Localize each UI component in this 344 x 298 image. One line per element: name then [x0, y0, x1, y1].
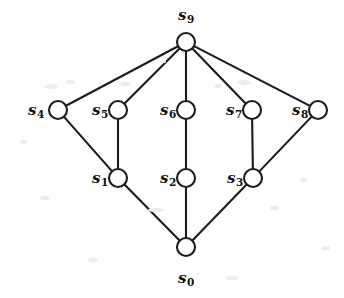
node-label-s3: s3 — [227, 171, 243, 186]
graph-node-s9[interactable] — [177, 33, 195, 51]
node-label-subscript-s6: 6 — [169, 108, 176, 120]
graph-edge-s3-s8 — [259, 116, 312, 172]
node-label-base-s5: s — [92, 101, 100, 119]
node-label-base-s7: s — [226, 101, 234, 119]
node-label-base-s9: s — [178, 6, 186, 24]
node-label-s1: s1 — [92, 171, 108, 186]
node-label-s6: s6 — [160, 103, 176, 118]
graph-edge-s3-s7 — [252, 119, 253, 170]
node-label-base-s2: s — [160, 169, 168, 187]
node-label-base-s4: s — [28, 101, 36, 119]
node-label-base-s0: s — [178, 269, 186, 287]
node-label-s9: s9 — [178, 8, 194, 23]
node-label-s0: s0 — [178, 271, 194, 286]
graph-node-s8[interactable] — [309, 101, 327, 119]
graph-edge-s0-s3 — [192, 184, 247, 241]
graph-edge-s7-s9 — [192, 48, 246, 104]
node-label-subscript-s1: 1 — [101, 176, 108, 188]
node-label-base-s1: s — [92, 169, 100, 187]
graph-node-s3[interactable] — [244, 169, 262, 187]
node-label-s5: s5 — [92, 103, 108, 118]
node-label-base-s6: s — [160, 101, 168, 119]
node-label-base-s8: s — [292, 101, 300, 119]
graph-node-s5[interactable] — [109, 101, 127, 119]
graph-edge-s8-s9 — [194, 46, 311, 106]
graph-edge-s4-s9 — [66, 46, 179, 106]
graph-node-s7[interactable] — [243, 101, 261, 119]
node-label-subscript-s4: 4 — [37, 108, 44, 120]
graph-edge-s5-s9 — [124, 48, 180, 104]
node-label-subscript-s7: 7 — [235, 108, 242, 120]
node-label-subscript-s3: 3 — [236, 176, 243, 188]
node-label-subscript-s9: 9 — [187, 13, 194, 25]
graph-diagram-figure: s0s1s2s3s4s5s6s7s8s9 — [0, 0, 344, 298]
node-label-base-s3: s — [227, 169, 235, 187]
node-label-s2: s2 — [160, 171, 176, 186]
graph-edge-s0-s1 — [124, 184, 180, 241]
graph-canvas — [0, 0, 344, 298]
graph-node-s1[interactable] — [109, 169, 127, 187]
node-label-subscript-s2: 2 — [169, 176, 176, 188]
graph-node-s4[interactable] — [49, 101, 67, 119]
node-label-s7: s7 — [226, 103, 242, 118]
graph-node-s2[interactable] — [177, 169, 195, 187]
graph-node-s0[interactable] — [177, 238, 195, 256]
graph-node-s6[interactable] — [177, 101, 195, 119]
node-label-subscript-s5: 5 — [101, 108, 108, 120]
graph-edge-s1-s4 — [64, 116, 113, 171]
node-label-s8: s8 — [292, 103, 308, 118]
edges-group — [64, 46, 313, 241]
node-label-subscript-s0: 0 — [187, 276, 194, 288]
node-label-subscript-s8: 8 — [301, 108, 308, 120]
node-label-s4: s4 — [28, 103, 44, 118]
